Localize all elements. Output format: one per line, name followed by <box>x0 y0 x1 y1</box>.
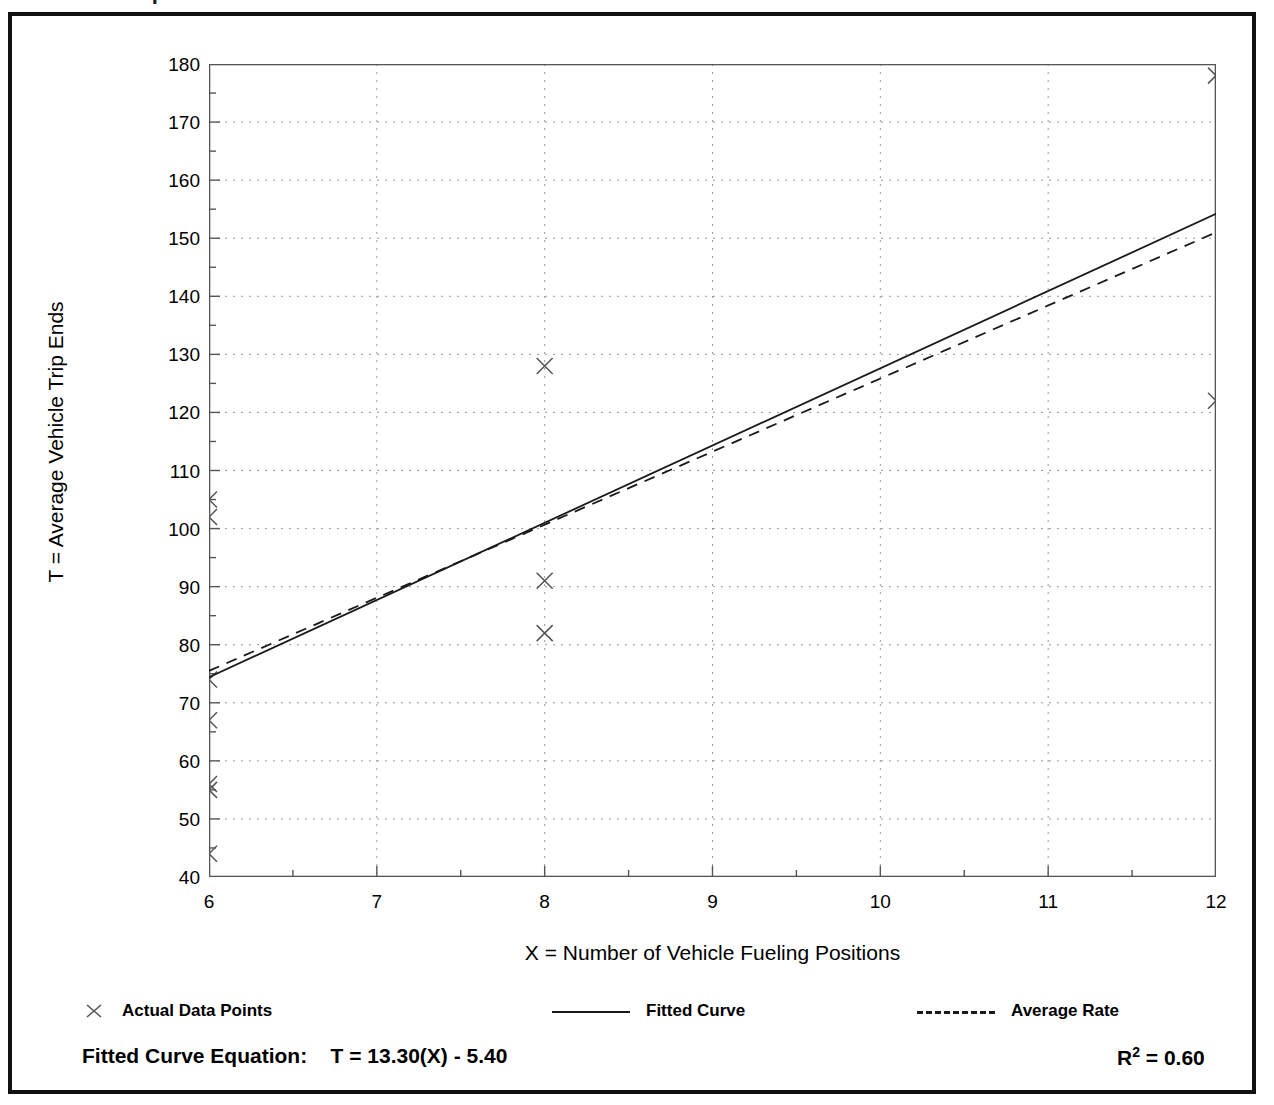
x-tick-label: 9 <box>707 892 718 911</box>
page-title: Data Plot - Trip Ends <box>0 0 600 4</box>
grid-lines <box>209 64 1216 877</box>
y-tick-label: 170 <box>168 113 200 132</box>
chart-figure: 405060708090100110120130140150160170180 … <box>12 16 1260 1098</box>
y-tick-label: 180 <box>168 55 200 74</box>
plot-svg <box>209 64 1216 877</box>
x-axis-tick-labels: 6789101112 <box>209 892 1216 918</box>
r-squared-exponent: 2 <box>1132 1044 1140 1060</box>
chart-legend: Actual Data Points Fitted Curve Average … <box>82 994 1212 1028</box>
y-tick-label: 140 <box>168 287 200 306</box>
x-tick-label: 6 <box>204 892 215 911</box>
legend-label-average: Average Rate <box>1011 1001 1119 1021</box>
x-tick-label: 11 <box>1038 892 1058 911</box>
plot-area <box>209 64 1216 877</box>
y-tick-label: 40 <box>179 868 200 887</box>
y-tick-label: 80 <box>179 635 200 654</box>
y-tick-label: 120 <box>168 403 200 422</box>
equation-expression: T = 13.30(X) - 5.40 <box>331 1044 508 1067</box>
y-tick-label: 150 <box>168 229 200 248</box>
r-squared-symbol: R <box>1117 1046 1132 1069</box>
legend-item-actual-data-points: Actual Data Points <box>82 994 272 1028</box>
y-tick-label: 130 <box>168 345 200 364</box>
legend-item-average-rate: Average Rate <box>917 994 1119 1028</box>
x-marker-icon <box>82 1000 106 1022</box>
fitted-curve-equation: Fitted Curve Equation: T = 13.30(X) - 5.… <box>82 1044 507 1068</box>
legend-item-fitted-curve: Fitted Curve <box>552 994 745 1028</box>
figure-outer-frame: 405060708090100110120130140150160170180 … <box>8 12 1256 1094</box>
y-tick-label: 70 <box>179 693 200 712</box>
y-axis-tick-labels: 405060708090100110120130140150160170180 <box>142 64 200 877</box>
y-tick-label: 90 <box>179 577 200 596</box>
x-tick-label: 7 <box>372 892 383 911</box>
y-tick-label: 160 <box>168 171 200 190</box>
page-title-cutoff: Data Plot - Trip Ends <box>0 0 600 4</box>
x-tick-label: 8 <box>539 892 550 911</box>
solid-line-icon <box>552 1000 630 1022</box>
x-tick-label: 12 <box>1205 892 1226 911</box>
plot-frame <box>210 65 1216 877</box>
legend-label-actual: Actual Data Points <box>122 1001 272 1021</box>
x-axis-title: X = Number of Vehicle Fueling Positions <box>209 941 1216 965</box>
x-tick-label: 10 <box>870 892 891 911</box>
y-axis-title: T = Average Vehicle Trip Ends <box>44 232 68 652</box>
y-tick-label: 100 <box>168 519 200 538</box>
y-tick-label: 50 <box>179 809 200 828</box>
legend-label-fitted: Fitted Curve <box>646 1001 745 1021</box>
equation-footer: Fitted Curve Equation: T = 13.30(X) - 5.… <box>82 1044 1212 1076</box>
r-squared-value: R2 = 0.60 <box>1117 1044 1205 1070</box>
r-squared-number: = 0.60 <box>1146 1046 1205 1069</box>
dashed-line-icon <box>917 1000 995 1022</box>
y-tick-label: 60 <box>179 751 200 770</box>
y-tick-label: 110 <box>170 461 200 480</box>
equation-label: Fitted Curve Equation: <box>82 1044 307 1067</box>
